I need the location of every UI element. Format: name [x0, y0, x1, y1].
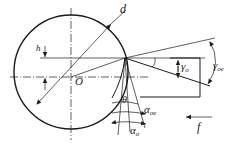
- label-alpha-oe: αoe: [144, 104, 156, 117]
- rake-face: [125, 58, 210, 86]
- diameter-line: [37, 24, 111, 104]
- alpha-oe-sub: oe: [150, 109, 157, 117]
- cutting-geometry-diagram: [0, 0, 230, 145]
- flank-line-3: [125, 58, 145, 128]
- label-O: O: [75, 76, 83, 87]
- gamma-oe-sub: oe: [217, 65, 224, 73]
- effective-reference-line: [125, 38, 215, 58]
- gamma-o-sub: o: [185, 66, 189, 74]
- label-gamma-oe: γoe: [213, 60, 224, 73]
- label-h: h: [36, 44, 41, 53]
- label-alpha-o: αo: [130, 125, 139, 138]
- label-feed: f: [197, 121, 200, 133]
- label-gamma-o: γo: [181, 61, 189, 74]
- alpha-o-arc: [112, 122, 146, 124]
- workpiece-circle: [14, 15, 128, 129]
- alpha-o-sub: o: [136, 130, 140, 138]
- label-theta: θ: [122, 95, 127, 105]
- gamma-o-arc: [152, 58, 155, 67]
- tool-flank: [140, 85, 200, 97]
- label-d: d: [120, 3, 126, 15]
